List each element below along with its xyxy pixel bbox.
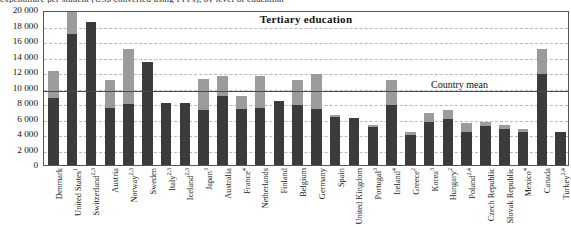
x-axis-label: Denmark (56, 168, 64, 199)
bar-segment-lower (518, 132, 529, 165)
y-tick-label: 6 000 (0, 115, 38, 124)
x-axis-label-note: 3 (429, 168, 435, 171)
bar-greece (405, 132, 416, 165)
bar-sweden (142, 62, 153, 165)
y-tick-label: 16 000 (0, 37, 38, 46)
bar-netherlands (255, 76, 266, 165)
x-axis-label: Austria (112, 168, 120, 193)
x-axis-label: Sweden (150, 168, 158, 195)
bar-portugal (368, 125, 379, 165)
y-tick-label: 4 000 (0, 130, 38, 139)
bar-spain (330, 115, 341, 165)
x-axis-label: Japan3 (206, 168, 214, 190)
x-axis-label: Spain (338, 168, 346, 187)
x-axis-label-note: 2,3 (184, 168, 190, 176)
bar-segment-lower (123, 104, 134, 165)
x-axis: DenmarkUnited States1Switzerland2,3Austr… (43, 167, 569, 236)
bar-segment-upper (537, 49, 548, 74)
x-axis-label: Australia (225, 168, 233, 199)
bar-segment-lower (142, 62, 153, 165)
x-axis-label: Italy2,3 (169, 168, 177, 191)
x-axis-label: Slovak Republic (507, 168, 515, 224)
x-axis-label-note: 3 (203, 168, 209, 171)
y-tick-label: 10 000 (0, 84, 38, 93)
bar-segment-upper (330, 115, 341, 117)
bar-segment-lower (555, 132, 566, 165)
x-axis-label-note: 2,3 (91, 168, 97, 176)
bar-segment-lower (67, 34, 78, 165)
bar-united-states (67, 11, 78, 165)
x-axis-label: France4 (244, 168, 252, 194)
bar-segment-lower (274, 101, 285, 165)
x-axis-label-note: 4 (241, 168, 247, 171)
x-axis-label: United Kingdom (356, 168, 364, 225)
plot-area: Tertiary education Country mean (43, 11, 569, 166)
bar-segment-upper (443, 110, 454, 119)
y-tick-label: 8 000 (0, 99, 38, 108)
x-axis-label-note: 4 (391, 168, 397, 171)
x-axis-label: Poland2,4 (469, 168, 477, 199)
bar-segment-lower (180, 103, 191, 165)
bar-segment-upper (217, 76, 228, 97)
bar-canada (537, 49, 548, 165)
bar-italy (161, 103, 172, 165)
x-axis-label-note: 1 (72, 168, 78, 171)
bar-segment-lower (255, 108, 266, 165)
x-axis-label-note: 2,4 (560, 168, 566, 176)
bar-finland (274, 101, 285, 165)
bar-segment-lower (386, 105, 397, 165)
y-tick-label: 18 000 (0, 22, 38, 31)
bar-mexico (518, 129, 529, 165)
y-tick-label: 12 000 (0, 68, 38, 77)
bar-belgium (292, 80, 303, 165)
bar-segment-lower (480, 126, 491, 165)
clipped-header-text: expenditure per student (US$ converted u… (0, 0, 571, 3)
bar-segment-upper (236, 96, 247, 110)
country-mean-line (44, 91, 568, 92)
country-mean-label: Country mean (429, 79, 490, 90)
x-axis-label: Canada (544, 168, 552, 193)
bar-segment-upper (518, 129, 529, 132)
bar-segment-upper (198, 79, 209, 110)
x-axis-label: Czech Republic (488, 168, 496, 221)
bar-hungary (443, 110, 454, 165)
y-tick-label: 14 000 (0, 53, 38, 62)
bar-segment-upper (480, 122, 491, 126)
bar-united-kingdom (349, 118, 360, 165)
bar-czech-republic (480, 122, 491, 165)
bar-segment-lower (198, 110, 209, 165)
bar-segment-lower (217, 96, 228, 165)
x-axis-label-note: 2,3 (166, 168, 172, 176)
bar-korea (424, 113, 435, 165)
x-axis-label-note: 3 (372, 168, 378, 171)
bar-france (236, 96, 247, 165)
x-axis-label: Germany (319, 168, 327, 199)
y-tick-label: 2 000 (0, 146, 38, 155)
bar-switzerland (86, 22, 97, 165)
bar-segment-lower (161, 103, 172, 165)
bar-segment-lower (424, 122, 435, 165)
bar-segment-lower (537, 74, 548, 165)
x-axis-label: Belgium (300, 168, 308, 197)
tertiary-education-chart: expenditure per student (US$ converted u… (0, 0, 571, 236)
bar-germany (311, 74, 322, 165)
bar-segment-lower (86, 22, 97, 165)
x-axis-label: Greece2 (413, 168, 421, 195)
bar-segment-lower (349, 118, 360, 165)
bar-segment-upper (105, 80, 116, 108)
x-axis-label-note: 2 (447, 168, 453, 171)
bar-segment-upper (405, 132, 416, 135)
x-axis-label-note: 2,3 (128, 168, 134, 176)
x-axis-label: Turkey2,4 (563, 168, 571, 199)
bar-denmark (48, 71, 59, 165)
bar-norway (123, 49, 134, 165)
y-tick-label: 20 000 (0, 6, 38, 15)
bar-segment-upper (292, 80, 303, 106)
chart-title: Tertiary education (44, 13, 568, 25)
x-axis-label: Portugal3 (375, 168, 383, 199)
y-tick-label: 0 (0, 161, 38, 170)
bar-segment-lower (443, 119, 454, 165)
bar-segment-upper (123, 49, 134, 104)
x-axis-label-note: 4 (523, 168, 529, 171)
x-axis-label: Switzerland2,3 (93, 168, 101, 216)
